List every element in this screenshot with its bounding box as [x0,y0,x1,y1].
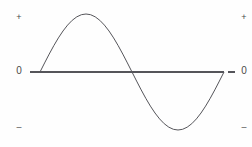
sine-plot-canvas [0,0,252,147]
sine-wave-figure: + 0 – + 0 – [0,0,252,147]
